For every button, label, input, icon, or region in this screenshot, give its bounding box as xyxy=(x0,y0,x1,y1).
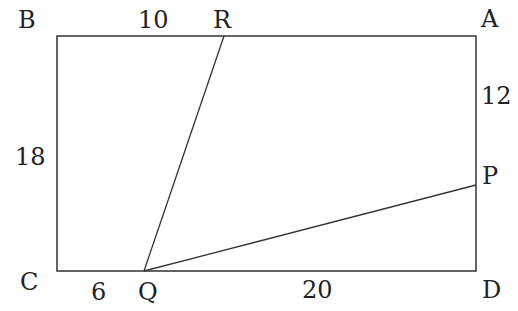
vertex-label-p: P xyxy=(482,162,498,190)
geometry-diagram: B 10 R A 12 18 P C 6 Q 20 D xyxy=(0,0,518,311)
vertex-label-b: B xyxy=(18,6,36,34)
measure-ap: 12 xyxy=(481,82,512,110)
vertex-label-q: Q xyxy=(138,278,158,306)
measure-qd: 20 xyxy=(302,276,333,304)
vertex-label-r: R xyxy=(213,6,232,34)
rectangle-abcd xyxy=(57,36,476,271)
measure-br: 10 xyxy=(138,6,169,34)
measure-bc: 18 xyxy=(15,143,46,171)
vertex-label-d: D xyxy=(482,276,501,304)
segment-qr xyxy=(144,36,224,271)
measure-cq: 6 xyxy=(91,278,106,306)
vertex-label-c: C xyxy=(20,268,38,296)
segment-qp xyxy=(144,185,476,271)
vertex-label-a: A xyxy=(480,5,499,33)
